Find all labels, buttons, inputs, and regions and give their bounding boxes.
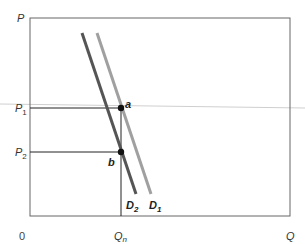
- crossline: [0, 104, 305, 108]
- point-a: [118, 105, 124, 111]
- plot-frame: [30, 18, 290, 216]
- p-axis-label: P: [17, 12, 25, 24]
- chart-canvas: P Q 0 P1 P2 Qn a b D2 D1: [0, 0, 305, 244]
- q-axis-label: Q: [286, 230, 295, 242]
- point-b-label: b: [108, 156, 115, 168]
- point-b: [118, 149, 124, 155]
- d1-curve: [97, 33, 151, 194]
- qn-label: Qn: [114, 230, 128, 244]
- d1-label: D1: [149, 199, 162, 214]
- d2-label: D2: [126, 199, 139, 214]
- point-a-label: a: [125, 98, 131, 110]
- d2-curve: [82, 33, 136, 194]
- origin-label: 0: [19, 230, 25, 242]
- p2-label: P2: [15, 146, 27, 161]
